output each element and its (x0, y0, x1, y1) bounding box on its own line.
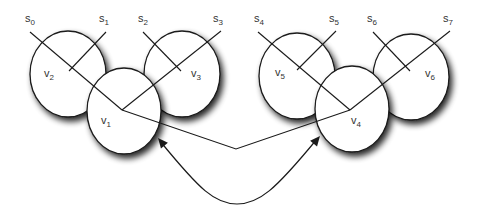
tree-diagram: s0s1s2s3s4s5s6s7v2v3v1v5v6v4 (0, 0, 477, 214)
swap-curve-arrow (160, 139, 317, 204)
nodes-layer (30, 31, 449, 154)
arrows-layer (155, 133, 324, 204)
leaf-label-s1: s1 (99, 12, 110, 27)
arrowhead-left-icon (155, 135, 168, 148)
leaf-label-s6: s6 (367, 12, 378, 27)
leaf-label-s4: s4 (254, 12, 265, 27)
leaf-label-s0: s0 (25, 12, 36, 27)
leaf-label-s3: s3 (213, 12, 224, 27)
leaf-label-s5: s5 (329, 12, 340, 27)
leaf-label-s7: s7 (443, 12, 454, 27)
leaf-label-s2: s2 (138, 12, 149, 27)
diagram-canvas: s0s1s2s3s4s5s6s7v2v3v1v5v6v4 (0, 0, 477, 214)
